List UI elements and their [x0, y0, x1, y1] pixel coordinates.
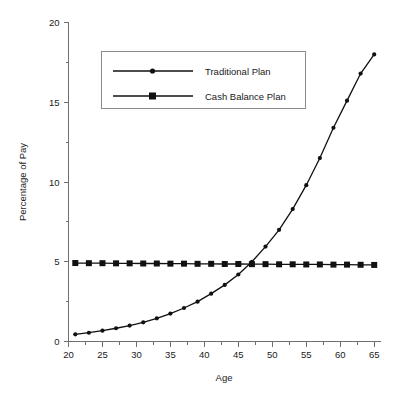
data-point-marker	[86, 260, 92, 266]
x-tick-label: 60	[335, 349, 346, 360]
data-point-marker	[223, 283, 227, 287]
data-point-marker	[181, 261, 187, 267]
data-point-marker	[87, 331, 91, 335]
data-point-marker	[263, 244, 267, 248]
data-point-marker	[276, 261, 282, 267]
legend-label: Traditional Plan	[205, 66, 271, 77]
data-point-marker	[344, 262, 350, 268]
x-tick-label: 30	[131, 349, 142, 360]
data-point-marker	[72, 260, 78, 266]
y-axis-tick-labels: 05101520	[49, 17, 60, 347]
data-point-marker	[195, 261, 201, 267]
y-tick-label: 15	[49, 97, 60, 108]
series-2	[72, 260, 377, 268]
data-point-marker	[345, 99, 349, 103]
data-point-marker	[128, 323, 132, 327]
x-tick-label: 25	[97, 349, 108, 360]
legend-marker-circle	[150, 68, 155, 73]
x-axis-ticks	[69, 342, 375, 347]
data-point-marker	[331, 126, 335, 130]
legend-label: Cash Balance Plan	[205, 91, 286, 102]
data-point-marker	[318, 156, 322, 160]
data-point-marker	[100, 329, 104, 333]
data-point-marker	[222, 261, 228, 267]
data-point-marker	[127, 260, 133, 266]
data-point-marker	[358, 262, 364, 268]
data-point-marker	[195, 300, 199, 304]
y-axis-title: Percentage of Pay	[17, 143, 28, 221]
data-point-marker	[154, 261, 160, 267]
data-point-marker	[372, 52, 376, 56]
data-point-marker	[114, 326, 118, 330]
x-tick-label: 20	[63, 349, 74, 360]
data-point-marker	[291, 207, 295, 211]
data-point-marker	[317, 261, 323, 267]
data-point-marker	[330, 262, 336, 268]
data-point-marker	[304, 183, 308, 187]
x-tick-label: 55	[301, 349, 312, 360]
x-tick-label: 35	[165, 349, 176, 360]
data-point-marker	[209, 292, 213, 296]
data-point-marker	[236, 272, 240, 276]
data-point-marker	[249, 261, 255, 267]
x-tick-label: 45	[233, 349, 244, 360]
data-point-marker	[73, 332, 77, 336]
data-point-marker	[303, 261, 309, 267]
data-point-marker	[141, 320, 145, 324]
line-chart: 05101520 20253035404550556065 Percentage…	[0, 0, 405, 400]
data-point-marker	[182, 306, 186, 310]
data-point-marker	[155, 316, 159, 320]
x-axis-title: Age	[216, 372, 233, 383]
chart-container: 05101520 20253035404550556065 Percentage…	[0, 0, 405, 400]
y-tick-label: 20	[49, 17, 60, 28]
y-tick-label: 10	[49, 177, 60, 188]
data-point-marker	[140, 261, 146, 267]
legend-marker-square	[149, 93, 156, 100]
y-tick-label: 5	[54, 256, 59, 267]
data-point-marker	[359, 71, 363, 75]
data-point-marker	[290, 261, 296, 267]
data-point-marker	[208, 261, 214, 267]
x-tick-label: 65	[369, 349, 380, 360]
data-point-marker	[235, 261, 241, 267]
data-point-marker	[167, 261, 173, 267]
data-point-marker	[168, 311, 172, 315]
x-tick-label: 50	[267, 349, 278, 360]
data-point-marker	[277, 228, 281, 232]
x-tick-label: 40	[199, 349, 210, 360]
data-point-marker	[263, 261, 269, 267]
y-tick-label: 0	[54, 336, 59, 347]
data-point-marker	[371, 262, 377, 268]
data-point-marker	[113, 260, 119, 266]
y-axis-ticks	[64, 23, 69, 342]
x-axis-tick-labels: 20253035404550556065	[63, 349, 379, 360]
chart-legend: Traditional PlanCash Balance Plan	[102, 52, 306, 109]
data-point-marker	[99, 260, 105, 266]
